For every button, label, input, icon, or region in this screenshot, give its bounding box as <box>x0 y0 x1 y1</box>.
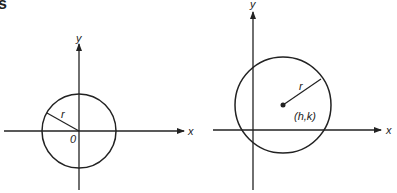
partial-heading: s <box>0 0 7 12</box>
circle-diagrams: s x y r 0 x y r (h,k) <box>0 0 397 193</box>
right-r-label: r <box>299 80 304 92</box>
center-label: (h,k) <box>294 110 316 122</box>
left-diagram: x y r 0 <box>4 32 194 190</box>
left-x-label: x <box>187 125 194 137</box>
right-y-label: y <box>249 0 257 10</box>
left-r-label: r <box>61 108 66 120</box>
origin-label: 0 <box>70 133 77 145</box>
right-x-label: x <box>385 124 392 136</box>
right-diagram: x y r (h,k) <box>213 0 392 190</box>
center-point <box>281 103 286 108</box>
left-y-label: y <box>75 32 83 44</box>
